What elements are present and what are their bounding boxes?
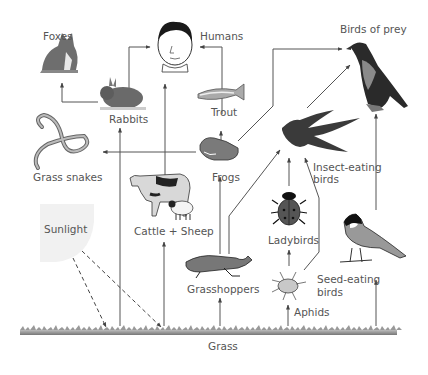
grasshopper-icon (186, 256, 252, 278)
human-face-icon (158, 22, 192, 72)
label-frogs: Frogs (212, 171, 240, 184)
label-aphids: Aphids (294, 306, 330, 319)
label-ladybirds: Ladybirds (268, 234, 319, 247)
seed-eating-bird-icon (340, 214, 406, 262)
label-grass: Grass (208, 340, 238, 353)
arrow-trout-humans (200, 47, 222, 114)
rabbit-icon (100, 77, 146, 110)
label-birds-of-prey: Birds of prey (340, 23, 407, 36)
grass-snake-icon (36, 115, 87, 168)
ladybird-icon (271, 192, 307, 225)
label-trout: Trout (211, 106, 237, 119)
arrow-insectbirds-birdsofprey (307, 65, 350, 108)
grass-strip (20, 325, 402, 335)
frog-icon (200, 138, 238, 160)
label-rabbits: Rabbits (109, 113, 148, 126)
label-humans: Humans (200, 30, 243, 43)
label-seed-eating-birds-1: Seed-eating (317, 273, 380, 286)
label-foxes: Foxes (43, 30, 73, 43)
sheep-icon (169, 201, 194, 221)
swallow-icon (282, 110, 360, 152)
arrow-sun-grass-2 (82, 251, 161, 327)
aphid-icon (272, 272, 306, 300)
label-grasshoppers: Grasshoppers (187, 283, 260, 296)
label-seed-eating-birds-2: birds (317, 286, 343, 299)
label-cattle-sheep: Cattle + Sheep (134, 225, 214, 238)
arrow-sun-grass-1 (73, 258, 106, 327)
label-grass-snakes: Grass snakes (33, 171, 102, 184)
arrow-rabbits-foxes (62, 83, 98, 102)
bird-of-prey-icon (346, 42, 408, 112)
arrow-rabbits-humans (129, 47, 150, 88)
trout-icon (198, 84, 244, 100)
label-insect-eating-birds-2: birds (313, 173, 339, 186)
label-sunlight: Sunlight (44, 223, 87, 236)
food-web-diagram (0, 0, 428, 375)
